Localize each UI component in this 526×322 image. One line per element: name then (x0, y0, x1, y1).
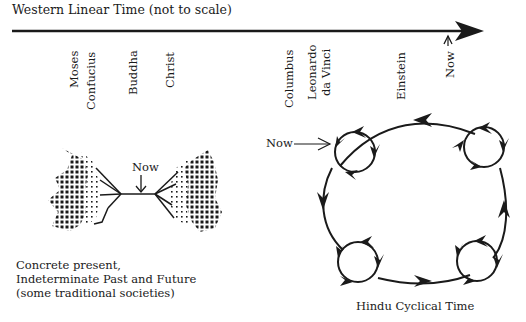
cycle-node-bottomleft (338, 242, 378, 282)
event-da-vinci: da Vinci (319, 48, 333, 96)
cycle-node-topleft (335, 132, 375, 172)
future-dot-cloud (184, 150, 222, 232)
linear-time-section: Western Linear Time (not to scale) Moses… (12, 2, 484, 110)
event-moses: Moses (67, 51, 81, 88)
event-leonardo: Leonardo (305, 45, 319, 100)
traditional-now-label: Now (132, 160, 159, 174)
event-buddha: Buddha (126, 50, 140, 95)
event-now: Now (443, 51, 457, 78)
event-confucius: Confucius (84, 52, 98, 110)
event-einstein: Einstein (394, 52, 408, 100)
traditional-caption-line2: Indeterminate Past and Future (16, 272, 196, 286)
cycle-arc-left (323, 168, 343, 250)
traditional-time-section: Now Concrete present, Indeterminate Past… (16, 148, 222, 300)
hindu-caption: Hindu Cyclical Time (356, 299, 475, 313)
time-concepts-diagram: Western Linear Time (not to scale) Moses… (0, 0, 526, 322)
arrow-left-icon (413, 113, 432, 127)
past-dot-cloud (48, 148, 88, 231)
arrow-up-icon (498, 200, 510, 218)
cycle-arc-right (493, 168, 506, 258)
traditional-caption-line3: (some traditional societies) (16, 286, 175, 300)
hindu-now-label: Now (266, 136, 293, 150)
linear-time-title: Western Linear Time (not to scale) (12, 2, 232, 17)
traditional-caption-line1: Concrete present, (16, 258, 121, 272)
cycle-arrowheads (317, 113, 510, 287)
arrow-right-icon (414, 275, 432, 287)
hindu-cyclical-section (323, 124, 506, 284)
cycle-node-topright (464, 127, 504, 167)
branch-lines (94, 168, 178, 224)
event-columbus: Columbus (282, 50, 296, 108)
event-christ: Christ (163, 52, 177, 88)
